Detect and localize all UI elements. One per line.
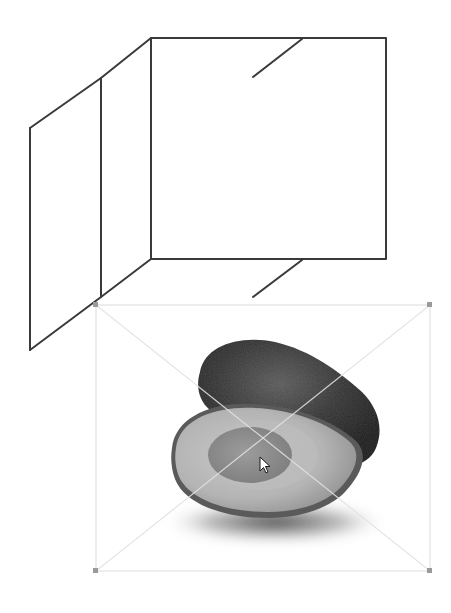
top-slash[interactable] <box>253 39 302 77</box>
front-face[interactable] <box>151 38 386 259</box>
handle-bottom-right[interactable] <box>427 568 432 573</box>
wireframe-drawing[interactable] <box>30 38 386 350</box>
side-panel-top-edge[interactable] <box>30 38 151 128</box>
design-canvas[interactable] <box>0 0 451 613</box>
handle-top-right[interactable] <box>427 302 432 307</box>
avocado-pit <box>208 427 292 483</box>
avocado-image[interactable] <box>160 340 390 544</box>
handle-top-left[interactable] <box>93 302 98 307</box>
bottom-slash[interactable] <box>253 260 302 297</box>
handle-bottom-left[interactable] <box>93 568 98 573</box>
canvas-svg <box>0 0 451 613</box>
